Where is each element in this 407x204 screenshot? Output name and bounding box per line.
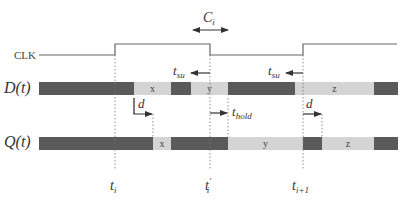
q-segment-invalid xyxy=(303,137,322,150)
q-value-label: z xyxy=(346,138,351,149)
d-signal-label: D(t) xyxy=(3,79,31,97)
d-segment-invalid xyxy=(228,82,295,95)
thold-label: thold xyxy=(232,104,252,121)
time-label-ti: ti xyxy=(110,178,117,195)
q-segment-invalid xyxy=(171,137,228,150)
time-label-ti-prime: t′i xyxy=(205,176,212,195)
d-value-label: x xyxy=(150,83,155,94)
d-value-label: y xyxy=(207,83,212,94)
d-segment-invalid xyxy=(39,82,134,95)
q-segment-invalid xyxy=(374,137,398,150)
d-label-1: d xyxy=(138,96,145,111)
d-label-2: d xyxy=(306,96,313,111)
q-segment-invalid xyxy=(39,137,153,150)
time-label-ti1: ti+1 xyxy=(292,178,309,195)
timing-diagram: CLK D(t) Q(t) xyz xyz Ci tsu tsu d d tho… xyxy=(0,0,407,204)
q-signal-label: Q(t) xyxy=(4,133,31,151)
q-value-label: x xyxy=(160,138,165,149)
tsu-label-2: tsu xyxy=(268,63,280,80)
d-segment-invalid xyxy=(171,82,191,95)
d-segment-invalid xyxy=(374,82,398,95)
d-signal-bar: xyz xyxy=(39,82,398,95)
q-signal-bar: xyz xyxy=(39,137,398,150)
d-value-label: z xyxy=(332,83,337,94)
q-value-label: y xyxy=(263,138,268,149)
clk-label: CLK xyxy=(14,49,36,61)
ci-label: Ci xyxy=(203,10,215,27)
clk-waveform xyxy=(39,44,397,55)
tsu-label-1: tsu xyxy=(173,63,185,80)
